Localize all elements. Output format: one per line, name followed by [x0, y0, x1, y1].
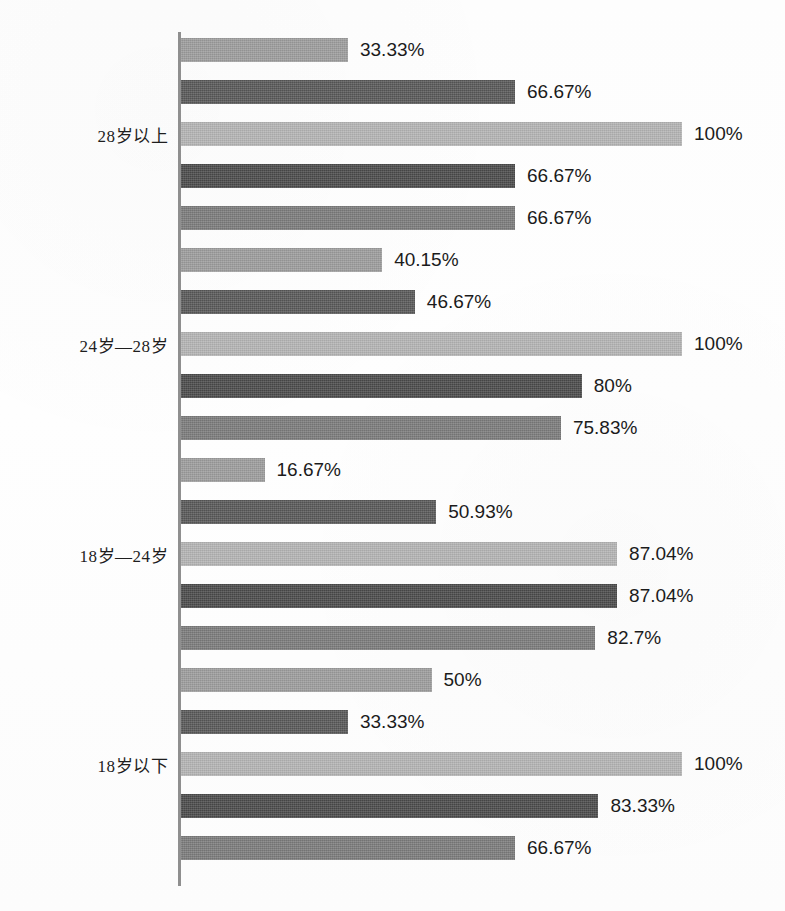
bar-scan-texture — [181, 458, 265, 482]
bar-value-label: 83.33% — [610, 794, 674, 818]
chart-container: 28岁以上33.33%66.67%100%66.67%66.67%24岁—28岁… — [0, 0, 785, 911]
bar-value-label: 87.04% — [629, 542, 693, 566]
bar-value-label: 33.33% — [360, 710, 424, 734]
bar-scan-texture — [181, 164, 515, 188]
bar — [181, 836, 515, 860]
bar — [181, 332, 682, 356]
bar-scan-texture — [181, 80, 515, 104]
bar-value-label: 66.67% — [527, 164, 591, 188]
bar-value-label: 50.93% — [448, 500, 512, 524]
bar-scan-texture — [181, 332, 682, 356]
bar — [181, 416, 561, 440]
bar — [181, 290, 415, 314]
bar — [181, 584, 617, 608]
bar-scan-texture — [181, 542, 617, 566]
bar-scan-texture — [181, 710, 348, 734]
bar-chart-plot-area: 28岁以上33.33%66.67%100%66.67%66.67%24岁—28岁… — [0, 0, 785, 911]
bar — [181, 80, 515, 104]
bar-value-label: 66.67% — [527, 836, 591, 860]
bar-scan-texture — [181, 668, 432, 692]
bar — [181, 38, 348, 62]
bar — [181, 542, 617, 566]
bar-value-label: 87.04% — [629, 584, 693, 608]
bar-scan-texture — [181, 206, 515, 230]
bar — [181, 752, 682, 776]
bar-value-label: 66.67% — [527, 80, 591, 104]
bar — [181, 626, 595, 650]
bar-value-label: 46.67% — [427, 290, 491, 314]
bar — [181, 794, 598, 818]
bar-scan-texture — [181, 290, 415, 314]
bar-scan-texture — [181, 794, 598, 818]
bar — [181, 206, 515, 230]
bar — [181, 164, 515, 188]
bar — [181, 458, 265, 482]
bar — [181, 248, 382, 272]
bar-value-label: 100% — [694, 752, 743, 776]
bar-scan-texture — [181, 752, 682, 776]
bar-value-label: 80% — [594, 374, 632, 398]
bar — [181, 374, 582, 398]
category-label: 24岁—28岁 — [80, 332, 169, 357]
bar-scan-texture — [181, 836, 515, 860]
bar-value-label: 66.67% — [527, 206, 591, 230]
bar-scan-texture — [181, 626, 595, 650]
bar-value-label: 50% — [444, 668, 482, 692]
bar — [181, 122, 682, 146]
bar — [181, 500, 436, 524]
bar-value-label: 100% — [694, 122, 743, 146]
bar-value-label: 82.7% — [607, 626, 661, 650]
bar-value-label: 75.83% — [573, 416, 637, 440]
bar-scan-texture — [181, 500, 436, 524]
bar-scan-texture — [181, 248, 382, 272]
bar — [181, 668, 432, 692]
bar-scan-texture — [181, 374, 582, 398]
bar-value-label: 16.67% — [277, 458, 341, 482]
bar-scan-texture — [181, 122, 682, 146]
category-label: 18岁以下 — [98, 752, 169, 777]
bar — [181, 710, 348, 734]
bar-scan-texture — [181, 416, 561, 440]
bar-value-label: 33.33% — [360, 38, 424, 62]
bar-value-label: 100% — [694, 332, 743, 356]
category-label: 18岁—24岁 — [80, 542, 169, 567]
category-label: 28岁以上 — [98, 122, 169, 147]
bar-scan-texture — [181, 38, 348, 62]
bar-scan-texture — [181, 584, 617, 608]
bar-value-label: 40.15% — [394, 248, 458, 272]
